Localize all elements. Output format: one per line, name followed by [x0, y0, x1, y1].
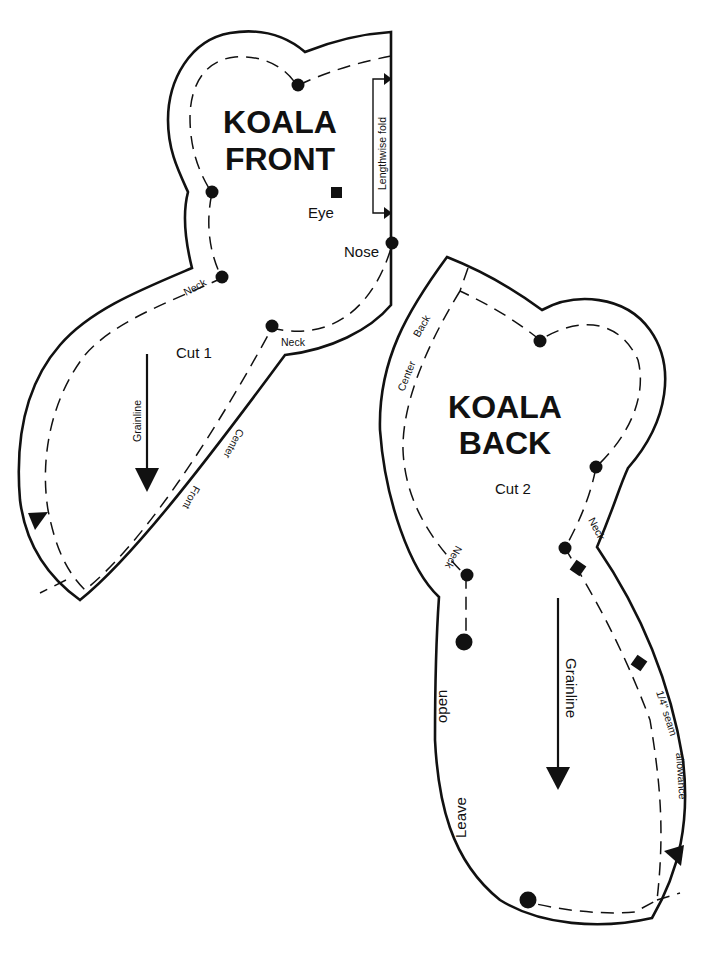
match-dot-icon	[206, 186, 219, 199]
eye-label: Eye	[308, 204, 334, 221]
front-title-line1: KOALA	[223, 104, 337, 140]
front-title-line2: FRONT	[225, 141, 336, 177]
opening-dot-icon	[520, 892, 537, 909]
fold-label: Lengthwise fold	[376, 117, 388, 190]
open-label: open	[433, 690, 450, 723]
match-dot-icon	[216, 271, 229, 284]
back-title-line2: BACK	[459, 425, 551, 461]
koala-front-piece: KOALA FRONT Eye Nose Cut 1 Lengthwise fo…	[19, 31, 399, 600]
opening-dot-icon	[456, 634, 473, 651]
match-dot-icon	[590, 461, 603, 474]
match-dot-icon	[559, 542, 572, 555]
match-dot-icon	[461, 569, 474, 582]
front-neck-label-right: Neck	[281, 336, 306, 348]
back-title-line1: KOALA	[448, 389, 562, 425]
back-grainline-label: Grainline	[563, 658, 580, 718]
koala-back-piece: KOALA BACK Cut 2 Grainline Center Back N…	[380, 257, 689, 924]
front-grainline-label: Grainline	[131, 400, 143, 442]
leave-label: Leave	[452, 797, 469, 838]
front-cut-label: Cut 1	[176, 344, 212, 361]
match-dot-icon	[266, 320, 279, 333]
nose-dot-icon	[386, 237, 399, 250]
eye-square-icon	[331, 187, 342, 198]
match-dot-icon	[292, 79, 305, 92]
pattern-sheet: KOALA FRONT Eye Nose Cut 1 Lengthwise fo…	[0, 0, 715, 966]
match-dot-icon	[534, 335, 547, 348]
nose-label: Nose	[344, 243, 379, 260]
back-cut-label: Cut 2	[495, 480, 531, 497]
